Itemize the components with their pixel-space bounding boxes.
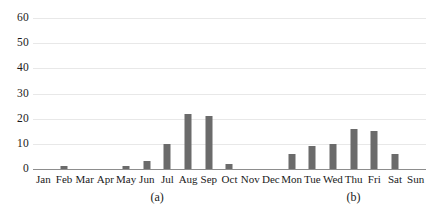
y-tick-label-30: 30 bbox=[3, 88, 29, 100]
x-tick-label-sep: Sep bbox=[201, 172, 218, 186]
bar-nov bbox=[240, 0, 261, 169]
x-tick-label-apr: Apr bbox=[97, 172, 114, 186]
bar-chart-figure: 0102030405060 JanFebMarAprMayJunJulAugSe… bbox=[0, 0, 442, 217]
bar-rect-sep bbox=[205, 116, 212, 169]
y-tick-label-60: 60 bbox=[3, 12, 29, 24]
bar-rect-tue bbox=[309, 146, 316, 169]
bar-rect-may bbox=[123, 166, 130, 169]
panel-caption-a: (a) bbox=[150, 190, 163, 204]
x-tick-label-mar: Mar bbox=[76, 172, 94, 186]
bar-sep bbox=[198, 0, 219, 169]
bar-sat bbox=[385, 0, 406, 169]
x-tick-label-nov: Nov bbox=[241, 172, 260, 186]
bar-rect-jul bbox=[164, 144, 171, 169]
bar-jun bbox=[136, 0, 157, 169]
bar-mon bbox=[281, 0, 302, 169]
y-tick-label-20: 20 bbox=[3, 113, 29, 125]
bar-rect-wed bbox=[329, 144, 336, 169]
x-tick-label-mon: Mon bbox=[281, 172, 302, 186]
y-axis-labels: 0102030405060 bbox=[0, 0, 29, 217]
bar-apr bbox=[95, 0, 116, 169]
x-tick-label-jul: Jul bbox=[161, 172, 174, 186]
bar-feb bbox=[54, 0, 75, 169]
bar-rect-thu bbox=[350, 129, 357, 169]
bar-jan bbox=[33, 0, 54, 169]
bar-rect-fri bbox=[371, 131, 378, 169]
x-tick-label-wed: Wed bbox=[323, 172, 343, 186]
x-tick-label-tue: Tue bbox=[304, 172, 321, 186]
bar-mar bbox=[74, 0, 95, 169]
bar-may bbox=[116, 0, 137, 169]
x-tick-label-jun: Jun bbox=[139, 172, 154, 186]
x-tick-label-sun: Sun bbox=[407, 172, 424, 186]
x-tick-label-thu: Thu bbox=[345, 172, 363, 186]
y-tick-label-40: 40 bbox=[3, 62, 29, 74]
panel-caption-b: (b) bbox=[347, 190, 361, 204]
bar-rect-feb bbox=[61, 166, 68, 169]
x-tick-label-feb: Feb bbox=[56, 172, 73, 186]
bar-tue bbox=[302, 0, 323, 169]
x-tick-label-oct: Oct bbox=[222, 172, 238, 186]
bar-jul bbox=[157, 0, 178, 169]
bars-layer bbox=[33, 0, 426, 169]
bar-aug bbox=[178, 0, 199, 169]
bar-rect-mon bbox=[288, 154, 295, 169]
bar-sun bbox=[405, 0, 426, 169]
x-tick-label-jan: Jan bbox=[36, 172, 51, 186]
bar-rect-aug bbox=[185, 114, 192, 169]
bar-dec bbox=[261, 0, 282, 169]
x-tick-label-sat: Sat bbox=[388, 172, 402, 186]
y-tick-label-50: 50 bbox=[3, 37, 29, 49]
x-tick-label-may: May bbox=[116, 172, 136, 186]
bar-fri bbox=[364, 0, 385, 169]
bar-wed bbox=[323, 0, 344, 169]
bar-thu bbox=[343, 0, 364, 169]
x-axis-line bbox=[33, 169, 426, 170]
y-tick-label-0: 0 bbox=[3, 163, 29, 175]
bar-rect-oct bbox=[226, 164, 233, 169]
bar-oct bbox=[219, 0, 240, 169]
bar-rect-sat bbox=[391, 154, 398, 169]
x-tick-label-fri: Fri bbox=[368, 172, 381, 186]
y-tick-label-10: 10 bbox=[3, 138, 29, 150]
bar-rect-jun bbox=[143, 161, 150, 169]
x-tick-label-dec: Dec bbox=[262, 172, 280, 186]
x-tick-label-aug: Aug bbox=[179, 172, 198, 186]
x-axis-labels: JanFebMarAprMayJunJulAugSepOctNovDecMonT… bbox=[33, 172, 426, 188]
